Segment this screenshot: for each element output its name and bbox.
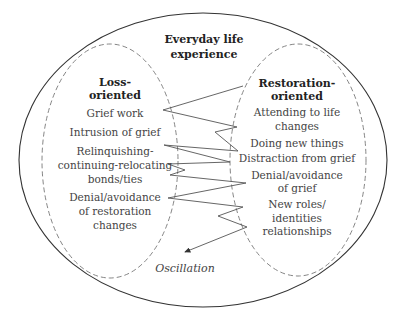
restoration-oriented-title-line-1: Restoration-: [259, 78, 336, 89]
everyday-life-title-line-2: experience: [171, 49, 238, 60]
loss-item-denial-line-3: changes: [93, 220, 137, 231]
restoration-item-denial-line-1: Denial/avoidance: [251, 170, 343, 181]
oscillation-label: Oscillation: [155, 263, 215, 274]
restoration-item-new-roles-line-1: New roles/: [268, 199, 326, 210]
loss-oriented-title-line-1: Loss-: [99, 77, 131, 88]
restoration-item-attending-line-1: Attending to life: [254, 107, 340, 118]
dual-process-model-diagram: Everyday life experience Loss- oriented …: [0, 0, 405, 323]
loss-item-denial-line-1: Denial/avoidance: [69, 192, 161, 203]
restoration-item-new-roles-line-2: identities: [272, 213, 322, 224]
restoration-item-new-roles-line-3: relationships: [262, 226, 331, 237]
loss-item-denial-line-2: of restoration: [79, 206, 152, 217]
loss-item-relinquishing-line-1: Relinquishing-: [77, 146, 154, 157]
loss-item-intrusion-of-grief: Intrusion of grief: [70, 127, 161, 138]
restoration-oriented-title-line-2: oriented: [271, 91, 323, 102]
loss-item-relinquishing-line-2: continuing-relocating: [58, 160, 173, 171]
loss-item-relinquishing-line-3: bonds/ties: [88, 174, 143, 185]
everyday-life-title-line-1: Everyday life: [164, 34, 243, 45]
restoration-item-doing-new-things: Doing new things: [250, 138, 343, 149]
oscillation-zigzag-arrow: [163, 86, 247, 252]
restoration-item-attending-line-2: changes: [275, 121, 319, 132]
restoration-item-denial-line-2: of grief: [278, 183, 317, 194]
loss-oriented-title-line-2: oriented: [89, 90, 141, 101]
restoration-item-distraction: Distraction from grief: [239, 153, 355, 164]
loss-item-grief-work: Grief work: [87, 108, 144, 119]
